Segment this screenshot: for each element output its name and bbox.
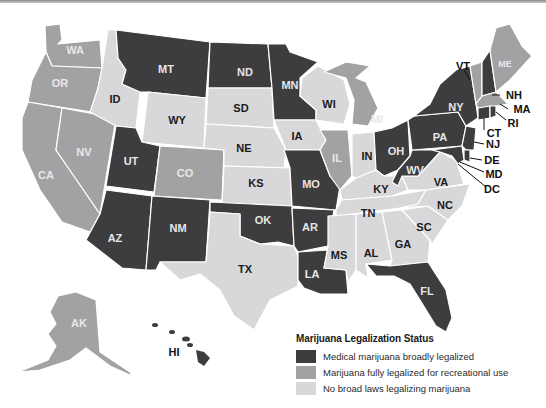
label-VT: VT [456, 60, 470, 72]
legend-label-recreational: Marijuana fully legalized for recreation… [323, 367, 508, 378]
label-NJ: NJ [486, 138, 500, 150]
legend-item-recreational: Marijuana fully legalized for recreation… [296, 365, 508, 380]
label-HI: HI [169, 346, 180, 358]
label-NE: NE [236, 142, 251, 154]
label-NV: NV [76, 146, 91, 158]
label-AK: AK [71, 317, 87, 329]
legend: Marijuana Legalization Status Medical ma… [296, 333, 508, 397]
label-OK: OK [255, 214, 272, 226]
label-DC: DC [484, 183, 500, 195]
label-TX: TX [238, 263, 252, 275]
label-IA: IA [292, 130, 303, 142]
state-ME[interactable] [490, 24, 532, 92]
state-CT[interactable] [478, 106, 490, 120]
label-AZ: AZ [108, 232, 123, 244]
label-MT: MT [158, 63, 174, 75]
legend-label-none: No broad laws legalizing marijuana [323, 383, 470, 394]
label-AR: AR [302, 221, 318, 233]
state-FL[interactable] [366, 262, 452, 332]
label-UT: UT [124, 155, 139, 167]
label-CO: CO [177, 167, 194, 179]
label-NC: NC [437, 199, 453, 211]
label-MD: MD [485, 168, 502, 180]
label-GA: GA [395, 238, 412, 250]
label-LA: LA [305, 268, 320, 280]
label-AL: AL [364, 247, 379, 259]
legend-item-medical: Medical marijuana broadly legalized [296, 349, 508, 364]
legend-item-none: No broad laws legalizing marijuana [296, 381, 508, 396]
label-NM: NM [169, 222, 186, 234]
label-ND: ND [237, 66, 253, 78]
label-RI: RI [508, 117, 519, 129]
state-DE[interactable] [464, 150, 470, 162]
label-WY: WY [168, 114, 186, 126]
label-KS: KS [248, 177, 263, 189]
label-MS: MS [331, 249, 348, 261]
label-IN: IN [362, 150, 373, 162]
label-SC: SC [416, 221, 431, 233]
label-WV: WV [406, 164, 424, 176]
label-MO: MO [302, 178, 320, 190]
label-FL: FL [420, 285, 433, 297]
label-DE: DE [484, 154, 499, 166]
state-HI[interactable] [152, 323, 210, 366]
label-SD: SD [233, 102, 248, 114]
label-MA: MA [513, 103, 530, 115]
label-NY: NY [448, 101, 463, 113]
state-ND[interactable] [208, 42, 272, 88]
label-WI: WI [322, 98, 335, 110]
label-IL: IL [332, 152, 342, 164]
label-KY: KY [373, 183, 388, 195]
label-TN: TN [361, 207, 376, 219]
label-NH: NH [506, 89, 522, 101]
legend-label-medical: Medical marijuana broadly legalized [323, 351, 474, 362]
label-CA: CA [38, 169, 54, 181]
label-PA: PA [433, 131, 447, 143]
label-ID: ID [110, 93, 121, 105]
label-OR: OR [52, 77, 69, 89]
label-MN: MN [281, 79, 298, 91]
state-RI[interactable] [490, 106, 496, 118]
label-VA: VA [434, 176, 448, 188]
legend-title: Marijuana Legalization Status [296, 333, 508, 344]
state-AK[interactable] [18, 292, 132, 376]
label-ME: ME [498, 59, 512, 69]
label-WA: WA [66, 44, 84, 56]
label-OH: OH [388, 145, 405, 157]
label-MI: MI [371, 113, 383, 125]
